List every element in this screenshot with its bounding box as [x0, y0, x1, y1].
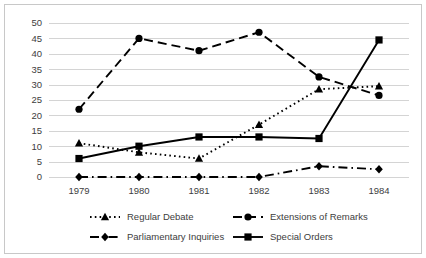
data-point-square — [135, 143, 142, 150]
y-tick-label: 0 — [37, 171, 42, 182]
chart-canvas: 05101520253035404550 1979198019811982198… — [5, 5, 423, 255]
data-point-triangle — [255, 120, 263, 128]
data-point-circle — [375, 92, 382, 99]
data-point-square — [375, 36, 382, 43]
data-point-circle — [195, 47, 202, 54]
x-tick-label: 1979 — [68, 185, 89, 196]
data-point-circle — [315, 73, 322, 80]
series-layer — [75, 29, 383, 182]
data-point-triangle — [101, 213, 109, 221]
series-line — [79, 32, 379, 109]
data-point-diamond — [135, 173, 143, 182]
data-point-triangle — [315, 85, 323, 93]
data-point-square — [315, 135, 322, 142]
line-chart: 05101520253035404550 1979198019811982198… — [5, 5, 423, 255]
legend-item-parliamentary-inquiries[interactable]: Parliamentary Inquiries — [90, 231, 224, 242]
data-point-square — [195, 133, 202, 140]
data-point-circle — [255, 29, 262, 36]
x-tick-label: 1982 — [248, 185, 269, 196]
legend-label: Regular Debate — [127, 211, 194, 222]
y-tick-label: 30 — [31, 79, 42, 90]
data-point-square — [255, 133, 262, 140]
y-tick-label: 45 — [31, 33, 42, 44]
data-point-square — [75, 155, 82, 162]
data-point-circle — [135, 35, 142, 42]
data-point-diamond — [75, 173, 83, 182]
y-axis-tick-labels: 05101520253035404550 — [31, 17, 42, 182]
data-point-triangle — [195, 154, 203, 162]
data-point-diamond — [195, 173, 203, 182]
x-tick-label: 1980 — [128, 185, 149, 196]
series-line — [79, 86, 379, 158]
data-point-diamond — [101, 233, 109, 242]
y-tick-label: 35 — [31, 64, 42, 75]
data-point-triangle — [75, 139, 83, 147]
legend-item-special-orders[interactable]: Special Orders — [233, 231, 333, 242]
x-tick-label: 1981 — [188, 185, 209, 196]
series-parliamentary-inquiries — [75, 162, 383, 181]
data-point-diamond — [375, 165, 383, 174]
y-tick-label: 50 — [31, 17, 42, 28]
chart-legend: Regular DebateExtensions of RemarksParli… — [90, 211, 368, 242]
data-point-diamond — [315, 162, 323, 171]
legend-label: Parliamentary Inquiries — [127, 231, 224, 242]
x-axis-tick-labels: 197919801981198219831984 — [68, 185, 389, 196]
y-tick-label: 5 — [37, 156, 42, 167]
legend-item-extensions-of-remarks[interactable]: Extensions of Remarks — [233, 211, 368, 222]
series-line — [79, 166, 379, 177]
y-tick-label: 15 — [31, 125, 42, 136]
y-tick-label: 25 — [31, 94, 42, 105]
data-point-square — [244, 233, 251, 240]
legend-item-regular-debate[interactable]: Regular Debate — [90, 211, 194, 222]
data-point-circle — [75, 106, 82, 113]
series-line — [79, 40, 379, 159]
data-point-circle — [244, 213, 251, 220]
x-tick-label: 1984 — [368, 185, 389, 196]
legend-label: Special Orders — [270, 231, 333, 242]
y-tick-label: 10 — [31, 141, 42, 152]
y-tick-label: 40 — [31, 48, 42, 59]
data-point-diamond — [255, 173, 263, 182]
y-tick-label: 20 — [31, 110, 42, 121]
legend-label: Extensions of Remarks — [270, 211, 368, 222]
chart-card: 05101520253035404550 1979198019811982198… — [4, 4, 422, 254]
series-special-orders — [75, 36, 382, 162]
x-tick-label: 1983 — [308, 185, 329, 196]
